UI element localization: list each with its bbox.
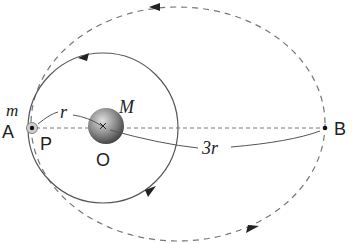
orbit-diagram: m r M A P O 3r B: [0, 0, 357, 244]
r-leader-line: [38, 112, 58, 124]
label-O: O: [96, 150, 110, 170]
three-r-leader-line: [231, 131, 320, 147]
point-B: [323, 126, 328, 131]
arrow-icon: [246, 225, 259, 233]
three-r-leader-line: [110, 130, 198, 148]
label-P: P: [40, 134, 52, 154]
arrow-icon: [145, 186, 156, 197]
satellite-m: [30, 126, 34, 130]
label-m: m: [6, 101, 18, 120]
label-3r: 3r: [201, 138, 219, 158]
label-r: r: [60, 102, 68, 122]
arrow-icon: [0, 0, 258, 66]
label-M: M: [118, 97, 135, 117]
label-A: A: [2, 122, 14, 142]
arrow-icon: [149, 3, 160, 11]
label-B: B: [334, 119, 346, 139]
